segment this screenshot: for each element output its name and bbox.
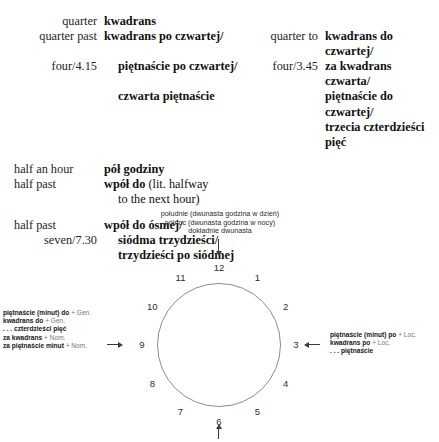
polish-term-right: piętnaście do czwartej/ [325,89,439,119]
clock-numeral-2: 2 [277,302,295,312]
annotation-line: piętnaście (minut) do + Gen. [3,309,103,317]
annotation-line: za kwadrans + Nom. [3,334,103,342]
clock-numeral-9: 9 [133,340,151,350]
annotation-line: piętnaście (minut) po + Loc. [330,331,438,339]
annotation-bold: piętnaście (minut) do [3,309,69,316]
left-annotation: piętnaście (minut) do + Gen. kwadrans do… [3,309,103,350]
annotation-rest: + Gen. [43,317,65,324]
english-term: half an hour [0,162,104,177]
glossary-row: trzecia czterdzieści pięć [0,120,439,150]
literal-gloss: (lit. halfway [148,177,208,191]
clock-numeral-8: 8 [143,379,161,389]
annotation-rest: + Nom. [64,342,87,349]
annotation-bold: za piętnaście minut [3,342,64,349]
english-term: half past [0,177,104,192]
annotation-bold: . . . piętnaście [330,347,373,354]
clock-numeral-4: 4 [277,379,295,389]
annotation-bold: kwadrans do [3,317,43,324]
glossary-row-half-past-cont: to the next hour) [0,192,439,207]
annotation-bold: kwadrans po [330,339,370,346]
annotation-line: . . . piętnaście [330,347,438,355]
polish-term-right: kwadrans do czwartej/ [325,29,439,59]
glossary-row-half-hour: half an hour pół godziny [0,162,439,177]
arrow-left-icon [308,344,320,345]
arrow-right-icon [107,344,119,345]
clock-numeral-11: 11 [172,273,190,283]
clock-numeral-10: 10 [143,302,161,312]
annotation-line: kwadrans po + Loc. [330,339,438,347]
annotation-rest: + Loc. [370,339,390,346]
polish-term: wpół do (lit. halfway [104,177,241,192]
polish-term-right: za kwadrans czwarta/ [325,59,439,89]
noon-midnight-label: południe (dwunasta godzina w dzień) półn… [100,210,340,236]
polish-term: kwadrans po czwartej/ [104,29,241,44]
clock-numeral-7: 7 [172,407,190,417]
clock-numeral-1: 1 [249,273,267,283]
glossary-row: four/4.15 piętnaście po czwartej/ four/3… [0,59,439,89]
annotation-line: . . . czterdzieści pięć [3,325,103,333]
english-term-right: quarter to [241,29,325,44]
glossary-row: czwarta piętnaście piętnaście do czwarte… [0,89,439,119]
polish-term: pół godziny [104,162,241,177]
annotation-bold: . . . czterdzieści pięć [3,325,66,332]
polish-term-text: wpół do [104,177,148,191]
annotation-bold: piętnaście (minut) po [330,331,396,338]
arrow-up-icon [218,428,219,439]
clock-diagram: południe (dwunasta godzina w dzień) półn… [0,206,439,442]
literal-gloss: to the next hour) [104,192,241,207]
clock-face [157,283,281,407]
clock-numeral-3: 3 [287,340,305,350]
annotation-line: kwadrans do + Gen. [3,317,103,325]
english-term-right: four/3.45 [241,59,325,74]
annotation-rest: + Loc. [396,331,416,338]
annotation-rest: + Nom. [42,334,65,341]
polish-term: kwadrans [104,14,241,29]
english-term: quarter [0,14,104,29]
english-term: quarter past [0,29,104,44]
exact-twelve-label-line: dokładnie dwunasta [100,227,340,236]
section-spacer [0,150,439,162]
clock-numeral-12: 12 [210,263,228,273]
glossary-row-half-past: half past wpół do (lit. halfway [0,177,439,192]
arrow-down-icon [218,239,219,252]
annotation-bold: za kwadrans [3,334,42,341]
annotation-rest: + Gen. [69,309,91,316]
glossary-row: quarter kwadrans [0,14,439,29]
annotation-line: za piętnaście minut + Nom. [3,342,103,350]
polish-term-right: trzecia czterdzieści pięć [325,120,439,150]
english-term: four/4.15 [0,59,104,74]
glossary-row: quarter past kwadrans po czwartej/ quart… [0,29,439,59]
polish-term: piętnaście po czwartej/ [104,59,241,74]
clock-numeral-5: 5 [249,407,267,417]
polish-term: czwarta piętnaście [104,89,241,104]
right-annotation: piętnaście (minut) po + Loc. kwadrans po… [330,331,438,356]
